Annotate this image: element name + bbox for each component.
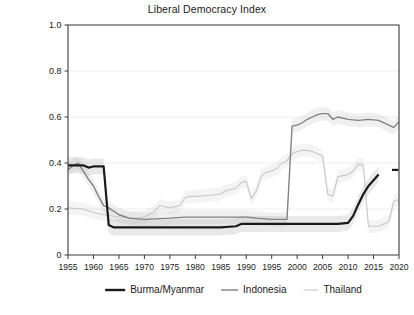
legend-label-burma-myanmar: Burma/Myanmar <box>130 284 205 295</box>
legend-label-thailand: Thailand <box>323 284 361 295</box>
legend-label-indonesia: Indonesia <box>243 284 287 295</box>
x-tick-label: 2010 <box>339 262 358 272</box>
y-tick-label: 0.6 <box>49 112 62 122</box>
y-tick-label: 1.0 <box>49 20 62 30</box>
y-tick-label: 0.4 <box>49 158 62 168</box>
liberal-democracy-index-chart: Liberal Democracy Index 00.20.40.60.81.0… <box>0 0 414 315</box>
chart-plot-area: 00.20.40.60.81.0195519601965197019751980… <box>0 0 414 315</box>
x-tick-label: 1990 <box>237 262 256 272</box>
confidence-band <box>68 107 399 227</box>
x-tick-label: 1980 <box>186 262 205 272</box>
x-tick-label: 1995 <box>262 262 281 272</box>
y-tick-label: 0 <box>56 250 61 260</box>
x-tick-label: 1965 <box>109 262 128 272</box>
series-line-indonesia <box>68 114 399 220</box>
x-tick-label: 2000 <box>288 262 307 272</box>
y-tick-label: 0.2 <box>49 204 62 214</box>
x-tick-label: 2005 <box>313 262 332 272</box>
x-tick-label: 1960 <box>84 262 103 272</box>
x-tick-label: 2020 <box>389 262 408 272</box>
x-tick-label: 1955 <box>58 262 77 272</box>
x-tick-label: 1970 <box>135 262 154 272</box>
x-tick-label: 2015 <box>364 262 383 272</box>
x-tick-label: 1975 <box>160 262 179 272</box>
y-tick-label: 0.8 <box>49 66 62 76</box>
x-tick-label: 1985 <box>211 262 230 272</box>
